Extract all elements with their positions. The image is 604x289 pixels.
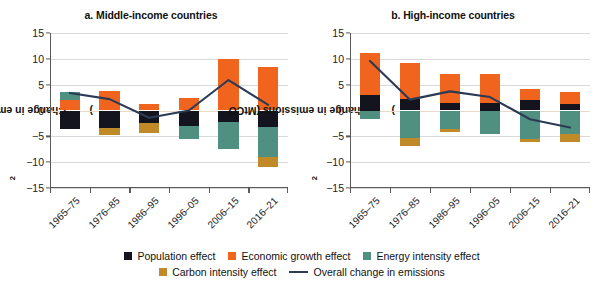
x-tick-mark xyxy=(510,188,511,193)
x-tick-label: 1976–85 xyxy=(384,195,421,232)
x-tick-mark xyxy=(50,188,51,193)
panel-b-plot-area: 151050−5−10−151965–751976–851986–951996–… xyxy=(350,33,590,188)
legend-line-icon xyxy=(289,271,308,273)
legend-item-label: Economic growth effect xyxy=(241,250,350,262)
legend-swatch-icon xyxy=(124,252,132,260)
x-tick-mark xyxy=(248,188,249,193)
legend-row-1: Population effectEconomic growth effectE… xyxy=(124,250,479,262)
legend-item-label: Energy intensity effect xyxy=(376,250,479,262)
chart-legend: Population effectEconomic growth effectE… xyxy=(0,248,604,289)
legend-item[interactable]: Energy intensity effect xyxy=(363,250,479,262)
x-tick-mark xyxy=(169,188,170,193)
x-tick-label: 1986–95 xyxy=(123,195,160,232)
y-axis-title-subscript: 2 xyxy=(9,177,18,181)
legend-item[interactable]: Population effect xyxy=(124,250,215,262)
x-tick-label: 1996–05 xyxy=(163,195,200,232)
x-tick-label: 2006–15 xyxy=(203,195,240,232)
x-tick-mark xyxy=(287,188,288,193)
legend-item[interactable]: Carbon intensity effect xyxy=(159,266,276,278)
x-tick-label: 1996–05 xyxy=(464,195,501,232)
legend-item-label: Overall change in emissions xyxy=(313,266,444,278)
overall-change-line xyxy=(350,33,590,188)
x-tick-mark xyxy=(390,188,391,193)
x-tick-label: 1965–75 xyxy=(344,195,381,232)
panel-b-y-axis-title: Change in emissions (MtCO2) xyxy=(304,32,320,190)
panel-a-y-axis-title: Change in emissions (MtCO2) xyxy=(2,32,18,190)
legend-swatch-icon xyxy=(228,252,236,260)
legend-row-2: Carbon intensity effectOverall change in… xyxy=(159,266,445,278)
y-axis-title-subscript: 2 xyxy=(311,177,320,181)
legend-item[interactable]: Overall change in emissions xyxy=(289,266,444,278)
x-tick-label: 1976–85 xyxy=(84,195,121,232)
x-tick-mark xyxy=(589,188,590,193)
y-axis-line xyxy=(350,33,351,188)
x-tick-label: 2016–21 xyxy=(544,195,581,232)
x-tick-mark xyxy=(350,188,351,193)
legend-item[interactable]: Economic growth effect xyxy=(228,250,350,262)
x-tick-mark xyxy=(129,188,130,193)
panel-b-title: b. High-income countries xyxy=(302,9,604,21)
legend-item-label: Carbon intensity effect xyxy=(172,266,276,278)
x-tick-mark xyxy=(430,188,431,193)
chart-panel-a: a. Middle-income countries Change in emi… xyxy=(0,0,302,246)
y-axis-line xyxy=(50,33,51,188)
figure-root: a. Middle-income countries Change in emi… xyxy=(0,0,604,289)
x-tick-mark xyxy=(470,188,471,193)
x-tick-label: 2016–21 xyxy=(242,195,279,232)
x-tick-mark xyxy=(550,188,551,193)
x-tick-mark xyxy=(209,188,210,193)
x-axis-line xyxy=(50,187,288,188)
legend-swatch-icon xyxy=(159,268,167,276)
x-tick-label: 2006–15 xyxy=(504,195,541,232)
chart-panel-b: b. High-income countries Change in emiss… xyxy=(302,0,604,246)
x-tick-label: 1986–95 xyxy=(424,195,461,232)
x-tick-label: 1965–75 xyxy=(44,195,81,232)
x-axis-line xyxy=(350,187,590,188)
x-tick-mark xyxy=(90,188,91,193)
panel-a-title: a. Middle-income countries xyxy=(0,9,302,21)
legend-item-label: Population effect xyxy=(137,250,215,262)
legend-swatch-icon xyxy=(363,252,371,260)
